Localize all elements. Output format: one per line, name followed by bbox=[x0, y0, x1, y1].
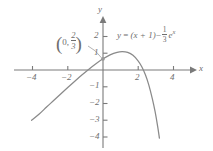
point-separator: , bbox=[67, 37, 69, 47]
equation-coefficient-fraction: 13 bbox=[162, 26, 168, 43]
coefficient-numerator: 1 bbox=[162, 26, 168, 34]
graph-figure: −4 −2 2 4 2 1 −1 −2 −3 −4 x y y = (x + 1… bbox=[0, 0, 213, 151]
x-tick-label-4: 4 bbox=[170, 73, 175, 82]
y-intercept-annotation: (0, 23) bbox=[56, 31, 82, 53]
equation-equals: = bbox=[123, 30, 128, 40]
function-curve bbox=[32, 52, 160, 139]
y-axis-arrow bbox=[100, 16, 107, 23]
x-axis-label: x bbox=[199, 64, 203, 73]
equation-exponent: x bbox=[172, 28, 175, 35]
y-tick-label-1: 1 bbox=[94, 48, 99, 57]
y-tick-label--4: −4 bbox=[89, 132, 100, 141]
x-tick-label--2: −2 bbox=[61, 73, 72, 82]
close-paren: ) bbox=[76, 33, 82, 54]
y-tick-label--3: −3 bbox=[89, 115, 100, 124]
x-axis-arrow bbox=[190, 67, 197, 74]
y-axis-label: y bbox=[98, 5, 102, 14]
equation-label: y = (x + 1)−13ex bbox=[117, 26, 175, 43]
y-tick-label--1: −1 bbox=[89, 81, 100, 90]
equation-lhs: y bbox=[117, 30, 121, 40]
coefficient-denominator: 3 bbox=[162, 36, 168, 44]
equation-minus: − bbox=[156, 30, 161, 40]
equation-linear-term: (x + 1) bbox=[131, 30, 156, 40]
y-axis-ticks bbox=[103, 37, 108, 138]
y-tick-label-2: 2 bbox=[94, 31, 99, 40]
x-tick-label-2: 2 bbox=[135, 73, 140, 82]
y-tick-label--2: −2 bbox=[89, 98, 100, 107]
x-tick-label--4: −4 bbox=[26, 73, 37, 82]
